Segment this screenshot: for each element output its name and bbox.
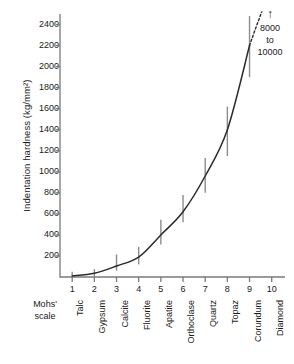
x-tick-label: 3 — [107, 284, 127, 294]
chart-figure: Indentation hardness (kg/mm²) 2004006008… — [0, 0, 294, 364]
axis-lines — [60, 14, 285, 277]
x-tick-label: 8 — [217, 284, 237, 294]
x-category-label: Topaz — [231, 300, 240, 324]
x-tick-label: 10 — [262, 284, 282, 294]
x-category-label: Diamond — [276, 300, 285, 336]
x-category-label: Quartz — [209, 300, 218, 327]
x-category-label: Apatite — [165, 300, 174, 328]
x-category-label: Calcite — [121, 300, 130, 328]
x-tick-label: 4 — [129, 284, 149, 294]
x-category-label: Corundum — [254, 300, 263, 342]
x-tick-label: 2 — [84, 284, 104, 294]
x-category-label: Orthoclase — [187, 300, 196, 344]
x-category-label: Gypsum — [98, 300, 107, 334]
curve-dashed-extension — [250, 12, 262, 46]
x-tick-label: 7 — [195, 284, 215, 294]
x-category-label: Talc — [76, 300, 85, 316]
x-tick-label: 9 — [240, 284, 260, 294]
x-tick-label: 6 — [173, 284, 193, 294]
x-tick-label: 5 — [151, 284, 171, 294]
x-category-label: Fluorite — [143, 300, 152, 330]
x-tick-label: 1 — [62, 284, 82, 294]
